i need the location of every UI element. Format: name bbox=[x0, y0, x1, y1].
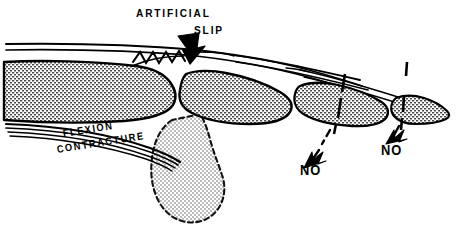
proximal-phalanx-bone bbox=[180, 71, 292, 124]
label-no-pip: NO bbox=[300, 163, 321, 177]
label-artificial-slip-line1: ARTIFICIAL bbox=[136, 8, 211, 20]
anatomical-figure: ARTIFICIAL SLIP FLEXION CONTRACTURE NO N… bbox=[0, 0, 457, 239]
metacarpal-bone bbox=[4, 61, 175, 122]
artificial-slip-arrow bbox=[178, 33, 205, 64]
distal-phalanx-bone bbox=[391, 96, 449, 124]
figure-canvas bbox=[0, 0, 457, 239]
label-artificial-slip-line2: SLIP bbox=[194, 25, 224, 37]
label-no-dip: NO bbox=[381, 143, 402, 157]
flexed-finger-ghost-outline bbox=[151, 114, 224, 222]
